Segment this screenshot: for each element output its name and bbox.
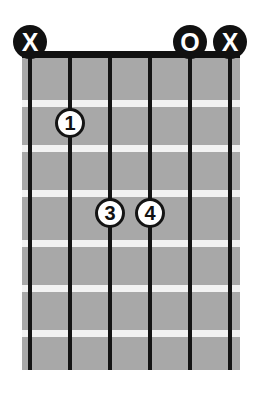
- fret-line-1: [22, 100, 240, 107]
- finger-dot-3: 3: [95, 198, 125, 228]
- fret-line-3: [22, 190, 240, 197]
- string-line-6: [228, 55, 232, 370]
- finger-dot-4: 4: [135, 198, 165, 228]
- string-line-5: [188, 55, 192, 370]
- fret-line-6: [22, 330, 240, 337]
- fret-line-2: [22, 145, 240, 152]
- string-line-2: [68, 55, 72, 370]
- string-line-1: [28, 55, 32, 370]
- muted-string-marker-6: X: [213, 25, 247, 59]
- chord-diagram: X O X 1 3 4: [0, 0, 258, 395]
- open-string-marker-5: O: [173, 25, 207, 59]
- finger-dot-1: 1: [55, 108, 85, 138]
- nut-bar: [22, 51, 240, 58]
- fret-line-4: [22, 240, 240, 247]
- fret-line-5: [22, 285, 240, 292]
- muted-string-marker-1: X: [13, 25, 47, 59]
